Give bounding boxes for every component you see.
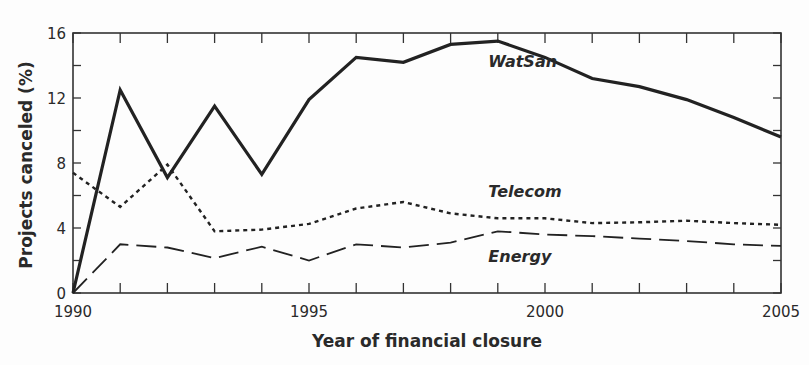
x-tick-label: 2005 — [762, 303, 800, 321]
y-tick-label: 16 — [47, 25, 66, 43]
x-tick-label: 1990 — [54, 303, 92, 321]
y-axis-title: Projects canceled (%) — [16, 61, 36, 268]
plot-frame — [73, 33, 781, 293]
x-tick-label: 1995 — [290, 303, 328, 321]
series-line-energy — [73, 231, 781, 293]
series-label-energy: Energy — [488, 247, 552, 266]
series-line-watsan — [73, 41, 781, 293]
x-axis-title: Year of financial closure — [311, 331, 542, 351]
y-tick-label: 12 — [47, 90, 66, 108]
y-tick-label: 8 — [56, 155, 66, 173]
series-line-telecom — [73, 165, 781, 232]
series-lines — [73, 41, 781, 293]
y-tick-label: 0 — [56, 285, 66, 303]
x-tick-label: 2000 — [526, 303, 564, 321]
series-label-watsan: WatSan — [488, 52, 557, 71]
x-tick-labels: 1990199520002005 — [54, 303, 800, 321]
axis-ticks — [73, 33, 781, 293]
y-tick-labels: 0481216 — [47, 25, 66, 303]
line-chart: 1990199520002005 0481216 WatSanTelecomEn… — [0, 0, 809, 365]
plot-border — [73, 33, 781, 293]
y-tick-label: 4 — [56, 220, 66, 238]
chart-canvas: 1990199520002005 0481216 WatSanTelecomEn… — [0, 0, 809, 365]
series-label-telecom: Telecom — [488, 182, 561, 201]
